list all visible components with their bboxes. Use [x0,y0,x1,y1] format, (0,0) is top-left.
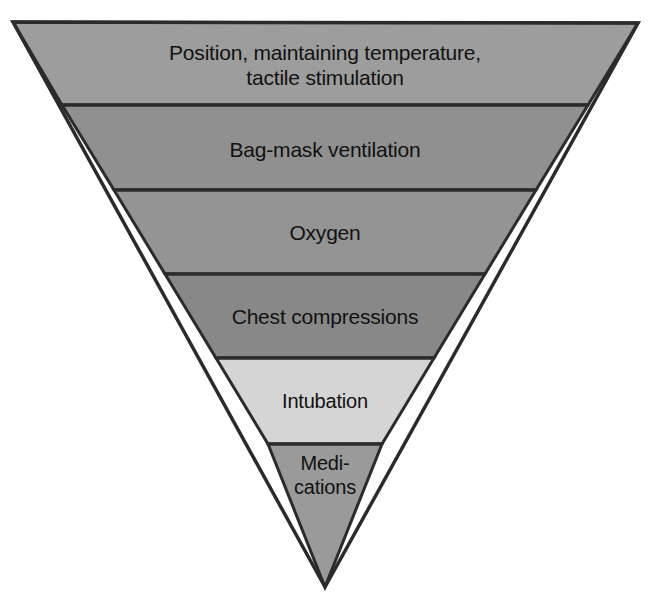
inverted-pyramid-figure: Position, maintaining temperature, tacti… [0,0,650,599]
pyramid-diagram [0,0,650,599]
pyramid-band-2 [62,105,588,190]
pyramid-band-3 [114,190,536,274]
pyramid-band-5 [216,358,434,444]
pyramid-band-1 [13,22,638,105]
pyramid-band-4 [165,274,485,358]
